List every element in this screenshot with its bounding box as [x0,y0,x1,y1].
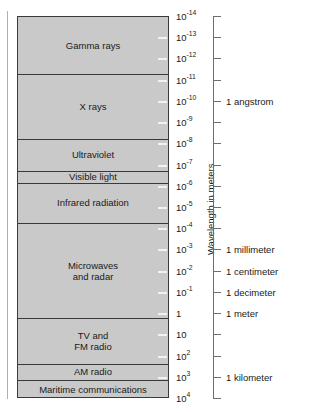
wavelength-tick-label: 104 [176,393,190,404]
tick-mantissa: 10 [176,159,187,170]
wavelength-tick-label: 10 [176,329,187,340]
reference-tick [213,271,221,272]
spectrum-band-label: X rays [80,101,107,112]
tick-mantissa: 10 [176,223,187,234]
spectrum-band-label: Maritime communications [39,384,147,395]
wavelength-tick-label: 10-6 [176,180,193,191]
tick-exponent: -9 [187,115,193,122]
wavelength-tick-label: 102 [176,350,190,361]
reference-tick [213,356,221,357]
tick-mantissa: 10 [176,202,187,213]
wavelength-tick-label: 10-11 [176,74,196,85]
decade-tick [158,334,167,336]
reference-tick [213,313,221,314]
spectrum-band-label: Gamma rays [66,40,120,51]
decade-tick [158,271,167,273]
band-divider [18,171,168,172]
wavelength-tick-label: 10-2 [176,265,193,276]
tick-mantissa: 10 [176,350,187,361]
band-divider [18,223,168,224]
tick-exponent: -10 [187,94,197,101]
decade-tick [158,80,167,82]
electromagnetic-spectrum-figure: Gamma raysX raysUltravioletVisible light… [0,0,314,413]
tick-mantissa: 10 [176,393,187,404]
axis-title-wavelength: Wavelength in meters [205,163,216,255]
tick-exponent: -4 [187,222,193,229]
tick-mantissa: 10 [176,95,187,106]
decade-tick [158,313,167,315]
tick-exponent: -8 [187,137,193,144]
decade-tick [158,101,167,103]
reference-tick [213,58,221,59]
reference-tick [213,377,221,378]
reference-label: 1 angstrom [226,95,274,106]
wavelength-tick-label: 10-10 [176,95,196,106]
tick-exponent: -6 [187,179,193,186]
spectrum-band-label: Microwaves and radar [68,260,118,282]
band-divider [18,380,168,381]
reference-tick [213,228,221,229]
tick-mantissa: 10 [176,138,187,149]
decade-tick [158,249,167,251]
tick-mantissa: 10 [176,117,187,128]
reference-label: 1 decimeter [226,286,276,297]
wavelength-tick-label: 10-13 [176,32,196,43]
wavelength-tick-label: 10-7 [176,159,193,170]
wavelength-tick-label: 10-9 [176,117,193,128]
reference-label: 1 millimeter [226,244,275,255]
spectrum-band: Maritime communications [18,380,168,399]
tick-exponent: -3 [187,243,193,250]
tick-exponent: -13 [187,31,197,38]
band-divider [18,318,168,319]
tick-mantissa: 1 [176,308,181,319]
tick-mantissa: 10 [176,11,187,22]
tick-mantissa: 10 [176,53,187,64]
decade-tick [158,292,167,294]
reference-tick [213,186,221,187]
tick-mantissa: 10 [176,32,187,43]
decade-tick [158,37,167,39]
wavelength-tick-label: 10-5 [176,202,193,213]
band-divider [18,183,168,184]
band-divider [18,74,168,75]
spectrum-band-label: Infrared radiation [57,197,129,208]
tick-exponent: -7 [187,158,193,165]
reference-tick [213,292,221,293]
tick-exponent: -5 [187,200,193,207]
decade-tick [158,165,167,167]
reference-tick [213,249,221,250]
tick-exponent: -1 [187,285,193,292]
spectrum-band: X rays [18,74,168,139]
decade-tick [158,122,167,124]
reference-tick [213,16,221,17]
decade-tick [158,228,167,230]
tick-mantissa: 10 [176,244,187,255]
spectrum-band: Infrared radiation [18,183,168,223]
tick-exponent: 2 [187,349,191,356]
decade-tick [158,207,167,209]
reference-label: 1 centimeter [226,265,278,276]
reference-label: 1 kilometer [226,371,272,382]
reference-tick [213,207,221,208]
reference-tick [213,101,221,102]
tick-mantissa: 10 [176,286,187,297]
decade-tick [158,377,167,379]
tick-exponent: -14 [187,9,197,16]
wavelength-tick-label: 10-4 [176,223,193,234]
spectrum-band-label: Ultraviolet [72,149,114,160]
spectrum-column: Gamma raysX raysUltravioletVisible light… [17,16,169,398]
wavelength-tick-label: 10-12 [176,53,196,64]
spectrum-band: TV and FM radio [18,318,168,364]
wavelength-tick-label: 10-1 [176,286,193,297]
wavelength-tick-label: 103 [176,371,190,382]
reference-tick [213,122,221,123]
spectrum-band: Microwaves and radar [18,223,168,319]
wavelength-tick-label: 10-14 [176,11,196,22]
reference-tick [213,165,221,166]
reference-tick [213,334,221,335]
band-divider [18,139,168,140]
tick-mantissa: 10 [176,329,187,340]
tick-mantissa: 10 [176,371,187,382]
reference-tick [213,398,221,399]
tick-mantissa: 10 [176,265,187,276]
